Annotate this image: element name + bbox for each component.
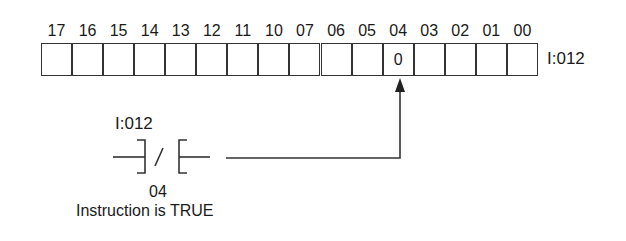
arrow-to-bit-icon: [226, 78, 405, 158]
xio-contact-icon: [113, 140, 210, 173]
ladder-diagram: [0, 0, 626, 241]
